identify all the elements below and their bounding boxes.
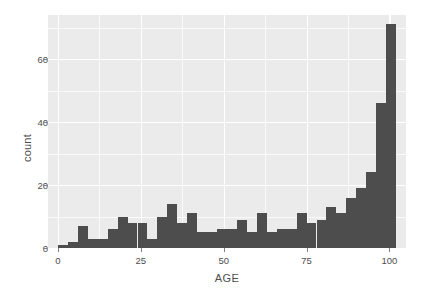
x-tick-label: 100 <box>369 255 409 266</box>
x-tick-label: 75 <box>287 255 327 266</box>
x-tick-label: 25 <box>121 255 161 266</box>
x-tick-mark <box>224 248 225 252</box>
histogram-chart: count 0204060 0255075100 AGE <box>0 0 429 296</box>
x-tick-mark <box>58 248 59 252</box>
x-axis-ticks: 0255075100 <box>0 0 429 296</box>
x-axis-title: AGE <box>48 272 406 284</box>
x-tick-label: 50 <box>204 255 244 266</box>
x-tick-label: 0 <box>38 255 78 266</box>
x-tick-mark <box>389 248 390 252</box>
x-tick-mark <box>141 248 142 252</box>
x-tick-mark <box>307 248 308 252</box>
